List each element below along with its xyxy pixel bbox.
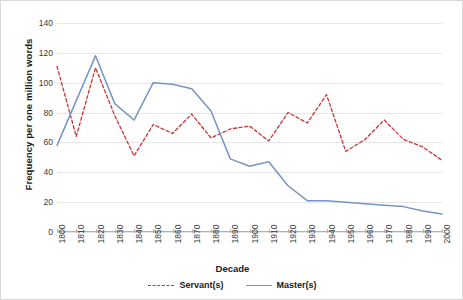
x-tick-label: 1890 bbox=[230, 214, 240, 254]
series-line-master-s bbox=[57, 56, 442, 214]
x-tick-label: 1910 bbox=[269, 214, 279, 254]
x-tick-label: 1810 bbox=[76, 214, 86, 254]
plot-area bbox=[57, 23, 442, 232]
x-tick-label: 1930 bbox=[307, 214, 317, 254]
y-tick-label: 120 bbox=[25, 48, 53, 58]
y-tick-label: 40 bbox=[25, 167, 53, 177]
x-tick-label: 1980 bbox=[404, 214, 414, 254]
chart-legend: Servant(s)Master(s) bbox=[1, 280, 463, 290]
x-tick-label: 1970 bbox=[384, 214, 394, 254]
y-tick-label: 0 bbox=[25, 227, 53, 237]
x-tick-label: 1870 bbox=[192, 214, 202, 254]
x-tick-label: 1880 bbox=[211, 214, 221, 254]
y-axis-tick-labels: 020406080100120140 bbox=[21, 23, 53, 232]
x-tick-label: 1920 bbox=[288, 214, 298, 254]
legend-entry[interactable]: Master(s) bbox=[246, 280, 317, 290]
x-tick-label: 1800 bbox=[57, 214, 67, 254]
x-axis-title: Decade bbox=[1, 263, 463, 274]
x-tick-label: 1820 bbox=[96, 214, 106, 254]
y-tick-label: 140 bbox=[25, 18, 53, 28]
legend-swatch-icon bbox=[148, 285, 174, 286]
x-tick-label: 1960 bbox=[365, 214, 375, 254]
x-tick-label: 1950 bbox=[346, 214, 356, 254]
x-tick-label: 1900 bbox=[250, 214, 260, 254]
x-tick-label: 1990 bbox=[423, 214, 433, 254]
x-tick-label: 1830 bbox=[115, 214, 125, 254]
y-tick-label: 80 bbox=[25, 108, 53, 118]
x-tick-label: 2000 bbox=[442, 214, 452, 254]
legend-entry[interactable]: Servant(s) bbox=[148, 280, 223, 290]
legend-label: Servant(s) bbox=[179, 280, 223, 290]
x-tick-label: 1940 bbox=[327, 214, 337, 254]
y-tick-label: 60 bbox=[25, 137, 53, 147]
x-tick-label: 1850 bbox=[153, 214, 163, 254]
line-chart-figure: Frequency per one million words 02040608… bbox=[0, 0, 463, 300]
x-tick-label: 1860 bbox=[173, 214, 183, 254]
legend-swatch-icon bbox=[246, 285, 272, 286]
x-tick-label: 1840 bbox=[134, 214, 144, 254]
legend-label: Master(s) bbox=[277, 280, 317, 290]
y-tick-label: 20 bbox=[25, 197, 53, 207]
y-tick-label: 100 bbox=[25, 78, 53, 88]
series-container bbox=[57, 23, 442, 232]
series-line-servant-s bbox=[57, 66, 442, 160]
